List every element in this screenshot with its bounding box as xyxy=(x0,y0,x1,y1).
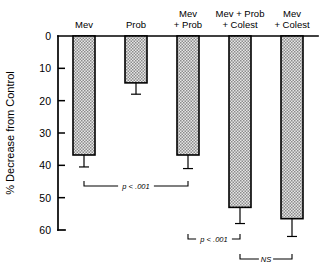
category-label-0: Mev xyxy=(75,19,93,30)
y-tick-label-30: 30 xyxy=(39,127,51,139)
bar-3 xyxy=(229,36,251,207)
category-label-3: Mev + Prob xyxy=(216,8,265,19)
bar-4 xyxy=(281,36,303,219)
y-tick-label-0: 0 xyxy=(45,30,51,42)
y-tick-label-50: 50 xyxy=(39,192,51,204)
y-tick-label-20: 20 xyxy=(39,95,51,107)
y-axis-ticks xyxy=(58,68,65,197)
category-label-2: + Prob xyxy=(174,19,202,30)
category-label-4: + Colest xyxy=(274,19,309,30)
bar-chart-figure: 0102030405060 % Decrease from Control Me… xyxy=(0,0,323,271)
bar-0 xyxy=(73,36,95,155)
y-tick-label-60: 60 xyxy=(39,224,51,236)
bar-1 xyxy=(125,36,147,83)
annotation-label-1: p < .001 xyxy=(199,235,227,244)
annotation-label-0: p < .001 xyxy=(121,182,149,191)
bars xyxy=(73,36,303,219)
category-labels: MevProbMev+ ProbMev + Prob+ ColestMev+ C… xyxy=(75,8,310,30)
y-axis-title: % Decrease from Control xyxy=(4,71,16,195)
category-label-1: Prob xyxy=(126,19,146,30)
y-tick-label-10: 10 xyxy=(39,62,51,74)
annotation-label-2: NS xyxy=(261,255,271,264)
significance-annotations: p < .001p < .001NS xyxy=(84,181,292,264)
y-tick-label-40: 40 xyxy=(39,159,51,171)
bar-2 xyxy=(177,36,199,155)
category-label-4: Mev xyxy=(283,8,301,19)
chart-canvas: 0102030405060 % Decrease from Control Me… xyxy=(0,0,323,271)
category-label-2: Mev xyxy=(179,8,197,19)
y-axis-tick-labels: 0102030405060 xyxy=(39,30,51,236)
category-label-3: + Colest xyxy=(222,19,257,30)
